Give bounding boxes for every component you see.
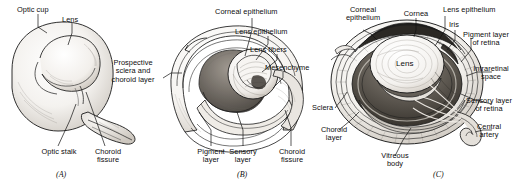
label-mesenchyme: Mesenchyme — [265, 64, 309, 72]
label-central-artery: Central artery — [465, 123, 513, 140]
panel-a: Optic cup Lens Optic stalk Choroid fissu… — [0, 0, 160, 190]
label-choroid-fissure-b: Choroid fissure — [267, 148, 317, 165]
label-cornea: Cornea — [393, 10, 439, 18]
label-sensory-layer-c: Sensory layer of retina — [458, 97, 515, 114]
label-vitreous-body: Vitreous body — [369, 152, 421, 169]
label-corneal-epithelium: Corneal epithelium — [215, 8, 278, 16]
label-lens-epithelium: Lens epithelium — [235, 28, 288, 36]
label-lens-fibers: Lens fibers — [250, 46, 287, 54]
panel-a-caption: (A) — [56, 170, 66, 179]
label-pigment-layer-c: Pigment layer of retina — [456, 31, 515, 48]
label-iris: Iris — [449, 21, 459, 29]
label-sensory-layer: Sensory layer — [217, 148, 269, 165]
label-prospective-sclera: Prospective sclera and choroid layer — [102, 59, 164, 84]
label-optic-cup: Optic cup — [17, 6, 49, 14]
panel-c: Corneal epithelium Cornea Lens epitheliu… — [325, 0, 515, 190]
panel-a-illustration — [0, 0, 160, 190]
panel-b-caption: (B) — [237, 170, 247, 179]
label-choroid-fissure: Choroid fissure — [82, 148, 134, 165]
label-lens-epithelium-c: Lens epithelium — [443, 6, 496, 14]
eye-development-figure: Optic cup Lens Optic stalk Choroid fissu… — [0, 0, 515, 190]
label-lens: Lens — [62, 16, 78, 24]
panel-c-caption: (C) — [433, 170, 444, 179]
label-lens-inner-c: Lens — [396, 60, 414, 68]
panel-b: Corneal epithelium Lens epithelium Lens … — [155, 0, 335, 190]
label-sclera: Sclera — [312, 104, 333, 112]
label-corneal-epithelium-c: Corneal epithelium — [330, 6, 396, 23]
label-choroid-layer: Choroid layer — [309, 126, 359, 143]
lens-vesicle — [228, 49, 278, 99]
label-intraretinal-space: Intraretinal space — [463, 65, 515, 82]
